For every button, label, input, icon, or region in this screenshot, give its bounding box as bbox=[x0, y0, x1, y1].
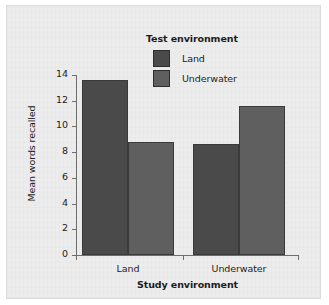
y-tick-label-12: 12 bbox=[56, 94, 68, 105]
bar-land-land[interactable] bbox=[82, 80, 128, 255]
legend-title: Test environment bbox=[146, 33, 271, 44]
y-tick-4: 4 bbox=[72, 204, 76, 205]
y-axis-title: Mean words recalled bbox=[26, 94, 37, 214]
y-tick-2: 2 bbox=[72, 229, 76, 230]
y-tick-12: 12 bbox=[72, 101, 76, 102]
y-tick-label-0: 0 bbox=[62, 248, 68, 259]
y-tick-label-2: 2 bbox=[62, 222, 68, 233]
x-group-label-underwater: Underwater bbox=[212, 263, 267, 274]
x-tick-right bbox=[298, 256, 299, 260]
x-group-label-land: Land bbox=[117, 263, 140, 274]
y-tick-label-4: 4 bbox=[62, 197, 68, 208]
y-tick-14: 14 bbox=[72, 75, 76, 76]
legend-swatch-land bbox=[153, 50, 170, 67]
y-tick-label-14: 14 bbox=[56, 68, 68, 79]
x-axis-title: Study environment bbox=[76, 279, 299, 290]
y-tick-label-8: 8 bbox=[62, 145, 68, 156]
legend-entry-land: Land bbox=[146, 48, 271, 68]
bar-land-underwater[interactable] bbox=[128, 142, 174, 255]
bar-underwater-underwater[interactable] bbox=[239, 106, 285, 255]
plot-area: 0 2 4 6 8 10 12 14 bbox=[76, 75, 299, 256]
y-tick-8: 8 bbox=[72, 152, 76, 153]
y-tick-6: 6 bbox=[72, 178, 76, 179]
chart-screenshot: Test environment Land Underwater 0 2 4 bbox=[0, 0, 329, 305]
y-tick-10: 10 bbox=[72, 126, 76, 127]
bar-underwater-land[interactable] bbox=[193, 144, 239, 255]
y-axis-line bbox=[76, 75, 77, 256]
legend-label-land: Land bbox=[182, 53, 205, 64]
x-tick-left bbox=[76, 256, 77, 260]
figure-panel: Test environment Land Underwater 0 2 4 bbox=[7, 6, 320, 298]
x-axis-line bbox=[76, 255, 299, 256]
y-tick-label-6: 6 bbox=[62, 171, 68, 182]
x-tick-middle bbox=[183, 256, 184, 260]
y-tick-label-10: 10 bbox=[56, 119, 68, 130]
